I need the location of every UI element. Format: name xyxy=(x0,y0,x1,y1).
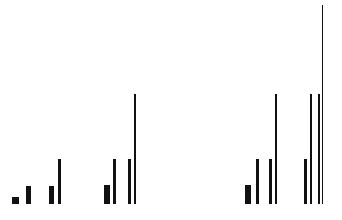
bar xyxy=(58,159,61,204)
bar xyxy=(322,5,323,204)
bar xyxy=(26,186,31,204)
bar xyxy=(12,197,19,204)
bar xyxy=(269,159,272,204)
bar xyxy=(310,94,312,204)
bar xyxy=(49,186,54,204)
bar xyxy=(134,94,136,204)
bar xyxy=(113,159,116,204)
bar-diagram xyxy=(0,0,342,220)
bar xyxy=(318,94,320,204)
bar xyxy=(304,159,307,204)
bar xyxy=(128,159,131,204)
bar xyxy=(275,94,277,204)
bar xyxy=(245,185,251,204)
bar xyxy=(256,159,259,204)
bar xyxy=(104,185,110,204)
